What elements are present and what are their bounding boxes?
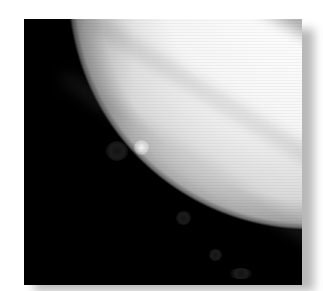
- impact-spot: [106, 141, 128, 161]
- impact-spot: [176, 211, 191, 225]
- impact-spot: [230, 268, 252, 279]
- jupiter-photo: [24, 19, 302, 285]
- impact-spot: [209, 249, 222, 261]
- limb-darkening: [24, 19, 302, 285]
- bright-cloud-spot: [134, 140, 149, 155]
